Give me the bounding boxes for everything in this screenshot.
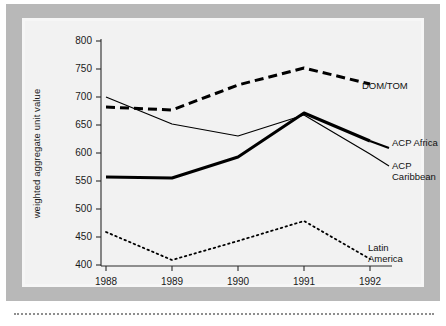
series-line-latin-america: [106, 221, 370, 260]
y-tick-label-500: 500: [58, 203, 92, 214]
y-tick-label-700: 700: [58, 91, 92, 102]
series-label-acp-caribbean: ACP Caribbean: [392, 160, 436, 182]
series-line-acp-africa: [106, 113, 370, 178]
y-tick-label-650: 650: [58, 119, 92, 130]
x-tick-label-1992: 1992: [350, 276, 390, 287]
chart-page: weighted aggregate unit value 800 750 70…: [0, 0, 446, 326]
y-tick-label-750: 750: [58, 63, 92, 74]
series-label-acp-africa: ACP Africa: [392, 137, 438, 148]
leader-line-acp-africa: [370, 141, 389, 148]
y-tick-label-450: 450: [58, 231, 92, 242]
series-label-latin-america: Latin America: [368, 242, 403, 264]
y-tick-marks: [96, 41, 101, 265]
y-axis-title: weighted aggregate unit value: [31, 64, 42, 244]
leader-line-acp-caribbean: [370, 154, 389, 166]
y-tick-label-400: 400: [58, 259, 92, 270]
x-tick-label-1988: 1988: [86, 276, 126, 287]
series-label-dom-tom: DOM/TOM: [362, 80, 408, 91]
footer-dotted-rule: [14, 313, 434, 315]
x-tick-label-1989: 1989: [152, 276, 192, 287]
y-tick-label-800: 800: [58, 35, 92, 46]
x-tick-marks: [106, 266, 370, 271]
series-line-dom-tom: [106, 68, 370, 110]
y-tick-label-550: 550: [58, 175, 92, 186]
x-tick-label-1991: 1991: [284, 276, 324, 287]
y-tick-label-600: 600: [58, 147, 92, 158]
x-tick-label-1990: 1990: [218, 276, 258, 287]
